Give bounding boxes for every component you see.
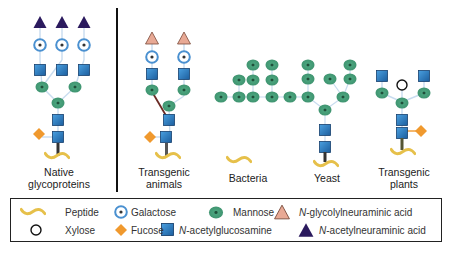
legend-neu5ac: N-acetylneuraminic acid [319,225,426,237]
transgenic-animals-structure [144,32,191,158]
panel-label-bacteria: Bacteria [218,172,278,184]
peptide-icon [21,209,45,213]
bacteria-yeast-mannose-array [215,60,357,166]
legend: Peptide Galactose Mannose N-glycolylneur… [10,198,442,242]
panel-label-line: glycoproteins [14,178,104,190]
legend-peptide: Peptide [65,207,99,219]
legend-text: -glycolylneuraminic acid [306,207,412,218]
panel-label-line: animals [124,178,204,190]
section-divider [116,8,118,192]
panel-label-line: Bacteria [218,172,278,184]
legend-neu5gc: N-glycolylneuraminic acid [299,207,412,219]
transgenic-plants-structure [376,71,431,154]
mannose-icon [208,206,222,218]
fucose-icon [115,224,127,236]
panel-label-line: plants [366,178,442,190]
legend-galactose: Galactose [131,207,176,219]
legend-xylose: Xylose [65,225,95,237]
neu5ac-icon [298,223,313,237]
legend-fucose: Fucose [131,225,164,237]
panel-label-native: Native glycoproteins [14,166,104,190]
panel-label-animals: Transgenic animals [124,166,204,190]
panel-label-line: Yeast [305,172,349,184]
legend-text: -acetylglucosamine [186,225,272,236]
panel-label-yeast: Yeast [305,172,349,184]
legend-glcnac: N-acetylglucosamine [179,225,272,237]
neu5gc-icon [274,205,289,219]
legend-text: -acetylneuraminic acid [326,225,426,236]
legend-mannose: Mannose [233,207,274,219]
panel-label-line: Transgenic [124,166,204,178]
panel-label-line: Native [14,166,104,178]
xylose-icon [31,225,41,235]
glycosylation-diagram: Native glycoproteins Transgenic animals … [0,0,449,253]
bacteria-peptide [227,157,251,161]
galactose-icon [115,206,127,218]
panel-label-line: Transgenic [366,166,442,178]
panel-label-plants: Transgenic plants [366,166,442,190]
